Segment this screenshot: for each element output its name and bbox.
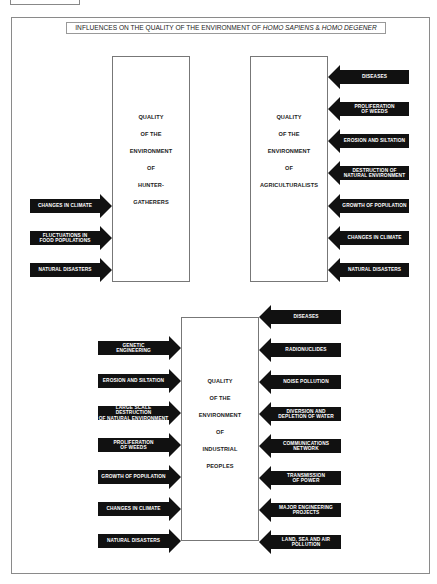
influence-label-line2: OF WEEDS — [120, 445, 146, 450]
influence-label: TRANSMISSIONOF POWER — [271, 471, 341, 485]
box-text-line: QUALITY — [276, 109, 301, 126]
influence-label: NATURAL DISASTERS — [340, 263, 409, 277]
influence-arrow: COMMUNICATIONSNETWORK — [259, 434, 341, 458]
box-text-line: GATHERERS — [133, 194, 169, 211]
influence-label: CHANGES IN CLIMATE — [98, 502, 169, 516]
influence-label: NATURAL DISASTERS — [30, 263, 100, 277]
influence-label: DISEASES — [340, 70, 409, 84]
title-species-sapiens: HOMO SAPIENS — [263, 24, 314, 31]
influence-label: NOISE POLLUTION — [271, 375, 341, 389]
influence-arrow: EROSION AND SILTATION — [328, 129, 409, 153]
influence-label: DIVERSION ANDDEPLETION OF WATER — [271, 407, 341, 421]
box-text-line: OF — [147, 160, 155, 177]
influence-label-line1: GROWTH OF POPULATION — [101, 474, 165, 479]
influence-label-line1: EROSION AND SILTATION — [344, 138, 405, 143]
box-text-line: INDUSTRIAL — [203, 441, 238, 458]
influence-label-line1: CHANGES IN CLIMATE — [38, 203, 92, 208]
influence-label: MAJOR ENGINEERINGPROJECTS — [271, 503, 341, 517]
hunter-gatherers-box: QUALITYOF THEENVIRONMENTOFHUNTER-GATHERE… — [112, 56, 190, 282]
influence-label-line1: NATURAL DISASTERS — [38, 267, 91, 272]
influence-label-line1: CHANGES IN CLIMATE — [347, 235, 401, 240]
title-prefix: INFLUENCES ON THE QUALITY OF THE ENVIRON… — [75, 24, 262, 31]
influence-arrow: MAJOR ENGINEERINGPROJECTS — [259, 498, 341, 522]
influence-label-line1: NATURAL DISASTERS — [348, 267, 401, 272]
influence-arrow: GROWTH OF POPULATION — [328, 194, 409, 218]
influence-label-line1: NATURAL DISASTERS — [107, 538, 160, 543]
influence-arrow: NATURAL DISASTERS — [98, 529, 181, 553]
influence-arrow: LARGE SCALE DESTRUCTIONOF NATURAL ENVIRO… — [98, 401, 181, 425]
influence-label: CHANGES IN CLIMATE — [30, 199, 100, 213]
box-text-line: OF THE — [209, 390, 230, 407]
box-text-line: PEOPLES — [206, 458, 233, 475]
influence-label-line1: NOISE POLLUTION — [283, 379, 328, 384]
influence-label: GROWTH OF POPULATION — [340, 199, 409, 213]
box-text-line: ENVIRONMENT — [268, 143, 310, 160]
influence-arrow: EROSION AND SILTATION — [98, 369, 181, 393]
influence-label-line2: NATURAL ENVIRONMENT — [344, 173, 405, 178]
influence-arrow: PROLIFERATIONOF WEEDS — [98, 433, 181, 457]
influence-label: LAND, SEA AND AIRPOLLUTION — [271, 535, 341, 549]
influence-label: LARGE SCALE DESTRUCTIONOF NATURAL ENVIRO… — [98, 406, 169, 420]
box-text-line: HUNTER- — [138, 177, 164, 194]
influence-label-line1: DISEASES — [293, 314, 318, 319]
box-text-line: ENVIRONMENT — [199, 407, 241, 424]
influence-arrow: CHANGES IN CLIMATE — [98, 497, 181, 521]
influence-label-line1: CHANGES IN CLIMATE — [106, 506, 160, 511]
influence-label-line2: OF POWER — [293, 478, 320, 483]
influence-arrow: DISEASES — [328, 65, 409, 89]
title-ampersand: & — [314, 24, 322, 31]
influence-arrow: DIVERSION ANDDEPLETION OF WATER — [259, 402, 341, 426]
influence-label: NATURAL DISASTERS — [98, 534, 169, 548]
influence-arrow: PROLIFERATIONOF WEEDS — [328, 97, 409, 121]
influence-arrow: GROWTH OF POPULATION — [98, 465, 181, 489]
influence-label-line2: OF NATURAL ENVIRONMENT — [99, 416, 169, 421]
influence-label-line2: OF WEEDS — [361, 109, 387, 114]
agriculturalists-box: QUALITYOF THEENVIRONMENTOFAGRICULTURALIS… — [250, 56, 328, 282]
influence-label: EROSION AND SILTATION — [98, 374, 169, 388]
influence-label-line1: DISEASES — [362, 74, 387, 79]
influence-arrow: NATURAL DISASTERS — [328, 258, 409, 282]
influence-label: PROLIFERATIONOF WEEDS — [98, 438, 169, 452]
influence-label-line2: POLLUTION — [292, 542, 321, 547]
influence-arrow: TRANSMISSIONOF POWER — [259, 466, 341, 490]
influence-label-line1: RADIONUCLIDES — [285, 347, 326, 352]
influence-label-line2: PROJECTS — [293, 510, 320, 515]
influence-label-line2: DEPLETION OF WATER — [278, 414, 334, 419]
influence-arrow: FLUCTUATIONS INFOOD POPULATIONS — [30, 226, 112, 250]
influence-label-line2: ENGINEERING — [116, 348, 151, 353]
influence-arrow: NOISE POLLUTION — [259, 370, 341, 394]
box-text-line: OF THE — [140, 126, 161, 143]
influence-arrow: RADIONUCLIDES — [259, 338, 341, 362]
influence-arrow: DISEASES — [259, 305, 341, 329]
influence-label: EROSION AND SILTATION — [340, 134, 409, 148]
influence-arrow: GENETICENGINEERING — [98, 336, 181, 360]
influence-label: FLUCTUATIONS INFOOD POPULATIONS — [30, 231, 100, 245]
influence-label-line1: EROSION AND SILTATION — [103, 378, 164, 383]
influence-label: COMMUNICATIONSNETWORK — [271, 439, 341, 453]
influence-arrow: LAND, SEA AND AIRPOLLUTION — [259, 530, 341, 554]
influence-label: PROLIFERATIONOF WEEDS — [340, 102, 409, 116]
influence-arrow: CHANGES IN CLIMATE — [328, 226, 409, 250]
influence-label-line2: FOOD POPULATIONS — [39, 238, 90, 243]
influence-arrow: DESTRUCTION OFNATURAL ENVIRONMENT — [328, 161, 409, 185]
influence-label: GENETICENGINEERING — [98, 341, 169, 355]
influence-label-line1: LARGE SCALE DESTRUCTION — [98, 405, 169, 416]
influence-arrow: CHANGES IN CLIMATE — [30, 194, 112, 218]
influence-label-line2: NETWORK — [293, 446, 318, 451]
box-text-line: ENVIRONMENT — [130, 143, 172, 160]
box-text-line: OF — [285, 160, 293, 177]
diagram-title: INFLUENCES ON THE QUALITY OF THE ENVIRON… — [66, 22, 386, 34]
title-species-degener: HOMO DEGENER — [322, 24, 377, 31]
box-text-line: QUALITY — [207, 373, 232, 390]
influence-label-line1: GROWTH OF POPULATION — [342, 203, 406, 208]
influence-label: RADIONUCLIDES — [271, 343, 341, 357]
box-text-line: OF THE — [278, 126, 299, 143]
box-text-line: QUALITY — [138, 109, 163, 126]
influence-label: DISEASES — [271, 310, 341, 324]
influence-label: DESTRUCTION OFNATURAL ENVIRONMENT — [340, 166, 409, 180]
influence-label: GROWTH OF POPULATION — [98, 470, 169, 484]
influence-label: CHANGES IN CLIMATE — [340, 231, 409, 245]
influence-arrow: NATURAL DISASTERS — [30, 258, 112, 282]
box-text-line: AGRICULTURALISTS — [260, 177, 318, 194]
cropped-header-box — [10, 0, 80, 5]
